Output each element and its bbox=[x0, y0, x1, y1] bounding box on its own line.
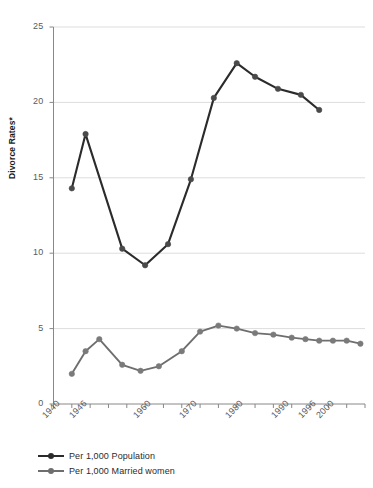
data-point-marker bbox=[316, 338, 321, 343]
data-point-marker bbox=[330, 338, 335, 343]
data-point-marker bbox=[344, 338, 349, 343]
data-point-marker bbox=[97, 336, 102, 341]
data-point-marker bbox=[303, 336, 308, 341]
data-point-marker bbox=[69, 371, 74, 376]
data-point-marker bbox=[216, 323, 221, 328]
legend-item-population[interactable]: Per 1,000 Population bbox=[38, 448, 175, 463]
data-point-marker bbox=[138, 368, 143, 373]
data-point-marker bbox=[211, 95, 216, 100]
data-point-marker bbox=[275, 86, 280, 91]
divorce-rates-chart: Divorce Rates* 0510152025 19401946196019… bbox=[0, 0, 373, 488]
data-point-marker bbox=[289, 335, 294, 340]
data-point-marker bbox=[271, 332, 276, 337]
legend-item-married-women[interactable]: Per 1,000 Married women bbox=[38, 463, 175, 478]
data-point-marker bbox=[234, 326, 239, 331]
data-point-marker bbox=[156, 364, 161, 369]
chart-legend: Per 1,000 Population Per 1,000 Married w… bbox=[38, 448, 175, 478]
legend-swatch-married-women bbox=[38, 465, 64, 476]
data-point-marker bbox=[188, 177, 193, 182]
legend-label-married-women: Per 1,000 Married women bbox=[69, 466, 175, 476]
data-point-marker bbox=[83, 349, 88, 354]
data-point-marker bbox=[120, 362, 125, 367]
data-point-marker bbox=[234, 60, 239, 65]
series-line-0 bbox=[72, 63, 319, 265]
data-point-marker bbox=[358, 341, 363, 346]
data-point-marker bbox=[83, 131, 88, 136]
series-line-1 bbox=[72, 326, 361, 374]
data-point-marker bbox=[252, 330, 257, 335]
data-point-marker bbox=[165, 241, 170, 246]
data-point-marker bbox=[298, 92, 303, 97]
data-point-marker bbox=[69, 186, 74, 191]
legend-swatch-population bbox=[38, 450, 64, 461]
data-point-marker bbox=[142, 263, 147, 268]
data-point-marker bbox=[120, 246, 125, 251]
data-point-marker bbox=[197, 329, 202, 334]
data-point-marker bbox=[179, 349, 184, 354]
legend-label-population: Per 1,000 Population bbox=[69, 451, 155, 461]
data-point-marker bbox=[252, 74, 257, 79]
data-point-marker bbox=[316, 107, 321, 112]
